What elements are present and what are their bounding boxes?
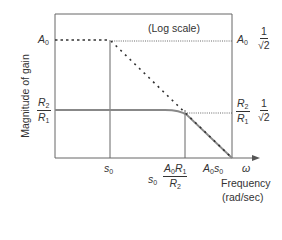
one-over-sqrt2-b: 1 √2 <box>258 98 270 122</box>
x-axis-label-line2: (rad/sec) <box>222 192 263 203</box>
log-scale-annotation: (Log scale) <box>148 23 200 34</box>
open-loop-rolloff-dotted <box>111 41 232 158</box>
corner-freq-fraction: A0R1 R2 <box>163 163 187 190</box>
a0-tick-label: A0 <box>38 34 49 46</box>
corner-freq-s0: s0 <box>148 174 157 186</box>
x-axis-label-line1: Frequency <box>221 178 271 189</box>
one-over-sqrt2-a: 1 √2 <box>258 26 270 50</box>
x-axis-arrow-icon <box>252 155 260 161</box>
omega-label: ω <box>242 163 250 174</box>
r2-r1-tick-label: R2 R1 <box>37 97 51 124</box>
s0-tick-label: s0 <box>104 163 113 175</box>
a0-sqrt2-label: A0 <box>237 34 248 46</box>
r2r1-sqrt2-label: R2 R1 <box>236 98 250 125</box>
y-axis-label: Magnitude of gain <box>19 41 31 151</box>
closed-loop-curve <box>55 110 232 158</box>
a0s0-tick-label: A0s0 <box>203 163 223 175</box>
